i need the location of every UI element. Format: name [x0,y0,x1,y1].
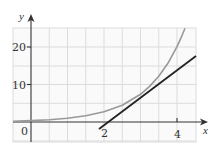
chart: y x 20 10 0 2 4 [0,0,212,149]
x-tick-label-2: 2 [101,127,108,140]
y-axis-label: y [18,10,24,22]
y-tick-label-20: 20 [12,41,26,54]
y-tick-label-10: 10 [12,79,26,92]
origin-label: 0 [21,125,28,138]
x-axis-label: x [202,124,208,136]
x-tick-label-4: 4 [174,128,181,141]
